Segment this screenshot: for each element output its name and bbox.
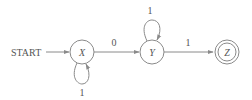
edge-y-z-label: 1 bbox=[186, 37, 191, 48]
start-label: START bbox=[11, 47, 41, 58]
edge-x-y-label: 0 bbox=[112, 37, 117, 48]
self-loop-y bbox=[144, 20, 160, 41]
state-x-label: X bbox=[78, 47, 86, 58]
state-z: Z bbox=[215, 40, 239, 64]
self-loop-y-label: 1 bbox=[148, 5, 153, 16]
state-y: Y bbox=[140, 40, 164, 64]
state-z-label: Z bbox=[224, 47, 230, 58]
self-loop-x-label: 1 bbox=[80, 87, 85, 98]
self-loop-x bbox=[74, 63, 89, 84]
state-x: X bbox=[70, 40, 94, 64]
automaton-diagram: START X 1 0 Y 1 1 Z bbox=[0, 0, 252, 100]
